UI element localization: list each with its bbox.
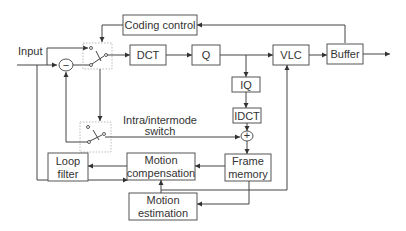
dct-block: DCT [130,45,166,65]
svg-text:memory: memory [228,168,268,180]
q-block: Q [192,45,220,65]
svg-text:Buffer: Buffer [330,48,359,60]
svg-text:IQ: IQ [240,79,252,91]
frame-memory-block: Frame memory [225,154,271,181]
motion-estimation-block: Motion estimation [129,193,197,220]
svg-text:DCT: DCT [137,49,160,61]
upper-switch-icon [90,47,108,67]
input-label: Input [18,45,42,57]
coding-control-block: Coding control [123,15,197,35]
lower-switch-icon [87,126,106,144]
adder: + [241,129,253,141]
svg-text:Motion: Motion [144,154,177,166]
loop-to-subtractor-line [66,72,88,142]
loop-filter-block: Loop filter [48,153,88,181]
svg-text:compensation: compensation [127,167,196,179]
svg-text:VLC: VLC [280,49,301,61]
svg-text:IDCT: IDCT [234,110,260,122]
svg-text:Q: Q [202,49,211,61]
frame-memory-to-me-line [197,181,249,204]
svg-text:+: + [244,129,250,141]
buffer-block: Buffer [327,44,363,64]
motion-compensation-block: Motion compensation [127,153,196,180]
svg-text:Motion: Motion [146,194,179,206]
coding-control-to-switch-line [102,25,123,42]
vlc-block: VLC [273,45,309,65]
iq-block: IQ [232,77,260,92]
svg-text:filter: filter [58,168,79,180]
svg-text:Loop: Loop [56,155,80,167]
switch-label-2: switch [145,125,176,137]
svg-text:estimation: estimation [138,207,188,219]
coding-control-label: Coding control [125,19,196,31]
svg-text:Frame: Frame [232,155,264,167]
subtractor: − [59,59,73,71]
svg-text:−: − [63,59,69,71]
encoder-diagram: Coding control Input − DCT Q VLC [0,0,406,231]
buffer-to-coding-control-line [197,25,345,43]
idct-block: IDCT [233,108,261,123]
